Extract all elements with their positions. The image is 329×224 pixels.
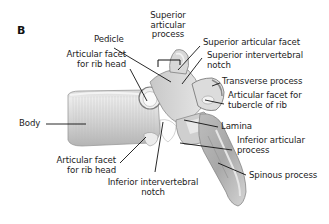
label-body: Body [19,119,40,129]
label-articular-facet-tubercle: Articular facet for tubercle of rib [228,91,302,110]
label-inferior-articular-process: Inferior articular process [237,136,305,155]
vertebra-diagram: B Superior articular process Pedicle Art… [0,0,329,224]
label-pedicle: Pedicle [94,35,124,45]
label-line: for rib head [48,166,116,176]
label-lamina: Lamina [221,122,252,132]
label-line: notch [207,61,303,71]
label-transverse-process: Transverse process [222,77,302,87]
label-articular-facet-rib-head-lower: Articular facet for rib head [48,156,116,175]
label-superior-intervertebral-notch: Superior intervertebral notch [207,51,303,70]
label-superior-articular-process: Superior articular process [145,11,191,40]
tubercle-facet-shape [202,96,214,104]
label-superior-articular-facet: Superior articular facet [203,38,300,48]
label-articular-facet-rib-head-upper: Articular facet for rib head [58,50,126,69]
label-line: tubercle of rib [228,101,302,111]
label-line: process [237,146,305,156]
label-spinous-process: Spinous process [249,171,317,181]
label-inferior-intervertebral-notch: Inferior intervertebral notch [103,178,203,197]
label-line: process [145,30,191,40]
lower-rib-facet-shape [144,132,158,146]
label-line: notch [103,188,203,198]
panel-label: B [17,24,25,37]
label-line: for rib head [58,60,126,70]
